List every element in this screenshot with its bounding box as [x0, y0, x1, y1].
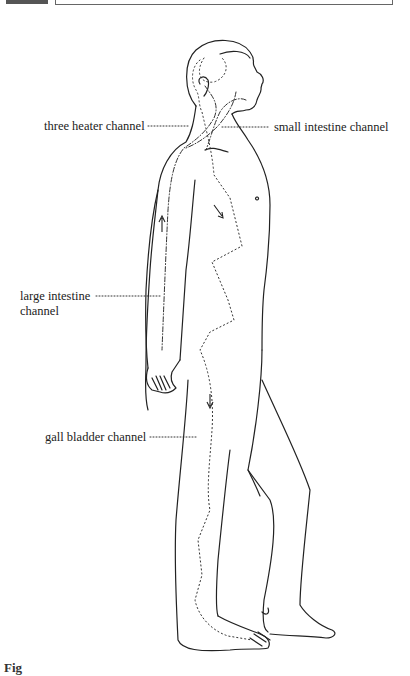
label-small-intestine-channel: small intestine channel: [274, 120, 389, 135]
label-three-heater-channel: three heater channel: [44, 119, 145, 134]
hand: [146, 360, 180, 393]
label-large-intestine-channel-line2: channel: [20, 304, 59, 319]
shoulder-line: [205, 148, 228, 152]
nipple: [256, 197, 259, 200]
fingers: [152, 376, 170, 390]
label-gall-bladder-channel: gall bladder channel: [45, 430, 146, 445]
arm-front: [180, 180, 195, 360]
back-outline: [146, 106, 197, 410]
arm-back: [146, 190, 158, 368]
small-intestine-channel-path: [206, 99, 246, 150]
arrow-down-chest-icon: [214, 205, 223, 218]
back-leg-front: [217, 450, 231, 616]
gall-bladder-channel-path: [193, 60, 252, 640]
label-large-intestine-channel-line1: large intestine: [20, 289, 90, 304]
figure-caption: Fig: [4, 660, 22, 676]
head-outline: [187, 40, 264, 114]
hairline: [220, 51, 250, 58]
gall-bladder-head-loop: [199, 58, 226, 82]
front-leg-back: [248, 350, 274, 632]
arrow-up-arm-icon: [159, 216, 165, 232]
front-neck-chest: [232, 114, 270, 350]
